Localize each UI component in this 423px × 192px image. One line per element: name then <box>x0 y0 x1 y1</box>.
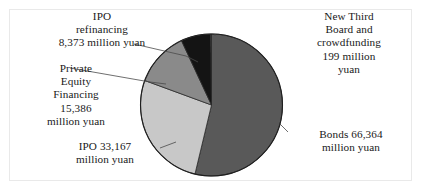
pie-chart-figure: IPO refinancing 8,373 million yuan Priva… <box>0 0 423 192</box>
slice-label-new-third-board-and-crowdfunding: New Third Board and crowdfunding 199 mil… <box>290 10 408 76</box>
slice-label-private-equity-financing: Private Equity Financing 15,386 million … <box>24 62 128 128</box>
slice-label-ipo: IPO 33,167 million yuan <box>46 140 164 166</box>
leader-line-bonds <box>280 124 288 132</box>
slice-label-ipo-refinancing: IPO refinancing 8,373 million yuan <box>28 10 176 50</box>
slice-label-bonds: Bonds 66,364 million yuan <box>288 128 414 154</box>
